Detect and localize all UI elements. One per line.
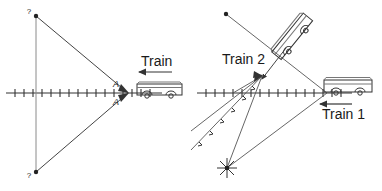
right-panel: Train 2 [191,12,372,178]
left-train-car [137,82,182,98]
right-axis [197,89,352,97]
light-flash-starburst [217,158,237,178]
train1-label: Train 1 [322,106,365,122]
left-upper-endpoint-dot [34,14,38,18]
physics-diagram-svg: ? ? A A Train [0,0,382,191]
left-lower-question-mark: ? [27,171,32,180]
left-panel: ? ? A A Train [6,7,182,180]
left-train-label: Train [141,53,172,69]
ray-train2-down [262,48,286,79]
right-upper-left-endpoint-dot [224,12,228,16]
left-angle-label-lower: A [112,97,119,107]
train2-label: Train 2 [222,51,265,67]
figure-canvas: ? ? A A Train [0,0,382,191]
ray-flash-to-train1 [227,93,327,168]
left-upper-ray-arrowhead [118,84,129,93]
left-lower-endpoint-dot [34,170,38,174]
left-angle-label-upper: A [112,79,119,89]
left-axis [6,89,162,97]
left-upper-question-mark: ? [27,7,32,16]
ray-lower-left-a [191,76,262,150]
